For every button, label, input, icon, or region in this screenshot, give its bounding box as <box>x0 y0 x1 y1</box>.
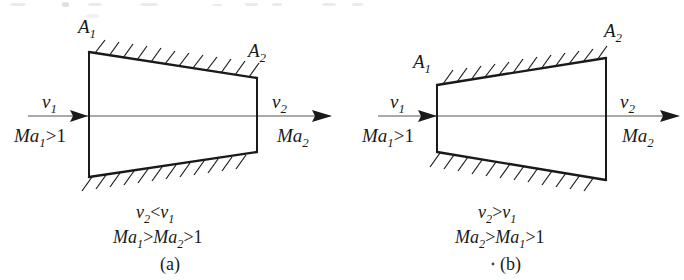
result-velocity-b-right-symbol: v <box>502 202 510 222</box>
area-label-b-inlet-subscript: 1 <box>425 61 431 76</box>
mach-label-a-outlet-subscript: 2 <box>302 135 309 150</box>
result-velocity-a-right-symbol: v <box>160 202 168 222</box>
panel-caption-b: (b) <box>500 254 521 275</box>
outlet-arrowhead-a <box>312 110 332 122</box>
result-velocity-b-right-subscript: 1 <box>510 212 516 226</box>
result-velocity-a-right-subscript: 1 <box>168 212 174 226</box>
area-label-a-inlet-symbol: A <box>76 16 90 37</box>
result-mach-a-operator-1: > <box>143 227 153 247</box>
scan-artifact-dot <box>492 263 495 266</box>
velocity-label-a-outlet-subscript: 2 <box>280 101 287 116</box>
wall-hatching-a-bottom <box>82 155 246 191</box>
area-label-b-inlet: A1 <box>411 51 431 76</box>
result-velocity-b: v2>v1 <box>478 202 516 226</box>
mach-label-a-inlet-relation: >1 <box>46 125 66 146</box>
wall-hatching-b-top <box>443 46 607 84</box>
result-mach-b-second-symbol: Ma <box>494 227 519 247</box>
wall-hatching-a-top <box>95 40 259 77</box>
mach-label-a-outlet-symbol: Ma <box>276 125 302 146</box>
duct-outline-b <box>437 58 606 180</box>
panel-caption-a: (a) <box>160 254 180 275</box>
velocity-label-b-inlet-subscript: 1 <box>398 101 404 116</box>
result-mach-b-first-symbol: Ma <box>454 227 479 247</box>
result-velocity-a: v2<v1 <box>136 202 174 226</box>
result-mach-a: Ma1>Ma2>1 <box>112 227 203 251</box>
mach-label-a-inlet-symbol: Ma <box>13 125 39 146</box>
velocity-label-a-inlet: v1 <box>42 91 57 116</box>
area-label-a-outlet: A2 <box>246 40 267 65</box>
area-label-b-inlet-symbol: A <box>411 51 425 72</box>
area-label-a-inlet-subscript: 1 <box>90 26 96 41</box>
result-mach-a-second-symbol: Ma <box>152 227 177 247</box>
mach-label-b-outlet-subscript: 2 <box>647 135 654 150</box>
mach-label-b-inlet: Ma1>1 <box>361 125 414 150</box>
mach-label-b-inlet-symbol: Ma <box>361 125 387 146</box>
figure-canvas: A1 A2 v1 v2 Ma1>1 Ma2 <box>0 0 684 280</box>
result-mach-a-operator-2: >1 <box>183 227 202 247</box>
area-label-a-inlet: A1 <box>76 16 96 41</box>
area-label-a-outlet-subscript: 2 <box>260 50 267 65</box>
result-mach-b-operator-1: > <box>485 227 495 247</box>
velocity-label-b-inlet: v1 <box>390 91 405 116</box>
mach-label-a-outlet: Ma2 <box>276 125 309 150</box>
velocity-label-b-outlet: v2 <box>620 91 635 116</box>
area-label-b-outlet-subscript: 2 <box>616 30 623 45</box>
area-label-b-outlet-symbol: A <box>602 20 616 41</box>
result-mach-b: Ma2>Ma1>1 <box>454 227 545 251</box>
result-mach-a-first-symbol: Ma <box>112 227 137 247</box>
panel-b: A1 A2 v1 v2 Ma1>1 Ma2 <box>361 20 680 275</box>
result-velocity-b-operator: > <box>492 202 502 222</box>
wall-hatching-b-bottom <box>430 153 594 191</box>
mach-label-b-outlet: Ma2 <box>621 125 654 150</box>
mach-label-b-inlet-relation: >1 <box>394 125 414 146</box>
area-label-a-outlet-symbol: A <box>246 40 260 61</box>
mach-label-a-inlet: Ma1>1 <box>13 125 66 150</box>
result-velocity-a-operator: < <box>150 202 160 222</box>
velocity-label-a-inlet-subscript: 1 <box>50 101 56 116</box>
result-mach-b-operator-2: >1 <box>525 227 544 247</box>
figure-root: A1 A2 v1 v2 Ma1>1 Ma2 <box>0 0 684 280</box>
velocity-label-a-outlet: v2 <box>272 91 287 116</box>
area-label-b-outlet: A2 <box>602 20 623 45</box>
mach-label-b-outlet-symbol: Ma <box>621 125 647 146</box>
velocity-label-b-outlet-subscript: 2 <box>628 101 635 116</box>
panel-a: A1 A2 v1 v2 Ma1>1 Ma2 <box>13 16 332 275</box>
result-velocity-b-left-symbol: v <box>478 202 486 222</box>
result-velocity-a-left-symbol: v <box>136 202 144 222</box>
outlet-arrowhead-b <box>660 110 680 122</box>
